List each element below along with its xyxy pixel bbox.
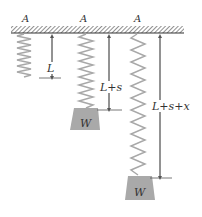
dimension-label-L-plus-s-plus-x: L+s+x: [151, 100, 190, 113]
spring-stretched: [131, 34, 145, 175]
spring-equilibrium: [79, 34, 93, 108]
weight-label-3: W: [134, 186, 147, 199]
ceiling-label-2: A: [79, 13, 87, 24]
weight-label-2: W: [80, 117, 93, 130]
dimension-L-plus-s: [97, 36, 122, 110]
ceiling: [11, 26, 184, 33]
ceiling-label-3: A: [133, 13, 141, 24]
spring-diagram: A A A L W L+s W L+s+x: [0, 0, 202, 217]
spring-unloaded: [17, 34, 31, 77]
dimension-label-L-plus-s: L+s: [99, 81, 123, 94]
ceiling-label-1: A: [21, 13, 29, 24]
dimension-label-L: L: [46, 62, 54, 75]
